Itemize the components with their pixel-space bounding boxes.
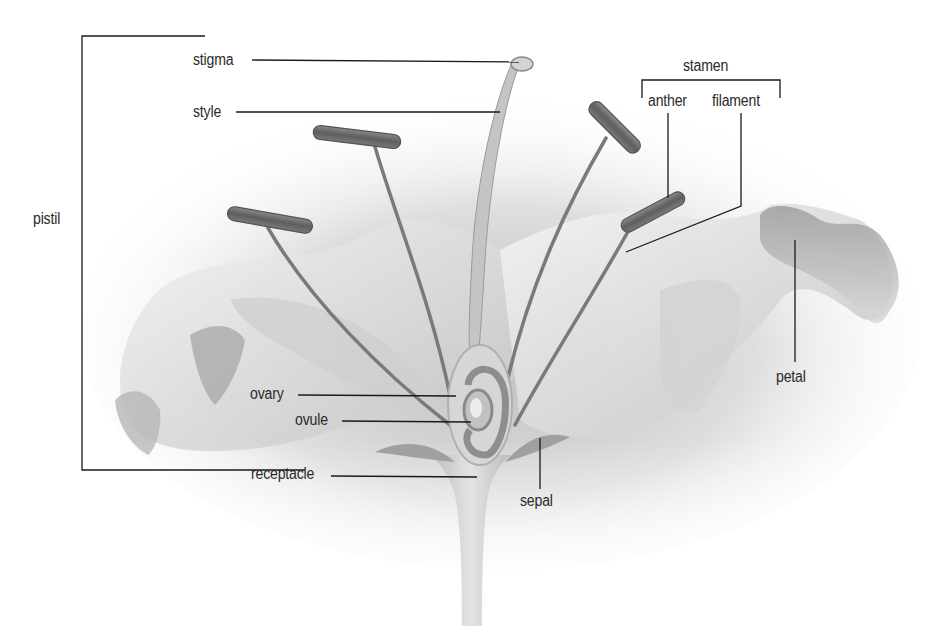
label-filament: filament (712, 92, 760, 110)
label-stigma: stigma (193, 51, 233, 69)
label-stamen: stamen (683, 57, 728, 75)
ovule (470, 398, 482, 418)
label-pistil: pistil (33, 210, 60, 228)
label-anther: anther (648, 92, 687, 110)
label-ovule: ovule (295, 411, 328, 429)
label-ovary: ovary (250, 385, 284, 403)
label-sepal: sepal (520, 492, 553, 510)
label-receptacle: receptacle (251, 465, 314, 483)
flower-diagram: pistil stigma style stamen anther filame… (0, 0, 936, 626)
label-style: style (193, 103, 221, 121)
stigma (511, 57, 533, 71)
label-petal: petal (776, 368, 806, 386)
flower-illustration (0, 0, 936, 626)
